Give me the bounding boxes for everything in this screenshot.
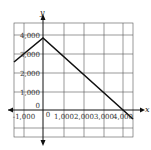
x-tick-1000: 1,000 <box>54 113 74 121</box>
x-tick-0: 0 <box>46 111 50 119</box>
x-tick-4000: 4,000 <box>113 113 133 121</box>
x-tick-3000: 3,000 <box>94 113 114 121</box>
y-tick-4000: 4,000 <box>20 32 40 40</box>
x-tick-minus-1000: -1,000 <box>13 113 35 121</box>
x-axis-arrow-left-icon <box>8 108 13 113</box>
chart: x y 4,000 3,000 2,000 1,000 0 -1,000 0 1… <box>0 0 151 150</box>
y-tick-1000: 1,000 <box>20 89 40 97</box>
y-axis-arrow-down-icon <box>41 140 46 146</box>
y-tick-2000: 2,000 <box>20 70 40 78</box>
x-tick-2000: 2,000 <box>74 113 94 121</box>
x-axis-label: x <box>145 105 150 114</box>
y-tick-0: 0 <box>36 102 40 110</box>
y-tick-3000: 3,000 <box>20 51 40 59</box>
y-axis-label: y <box>39 8 45 17</box>
